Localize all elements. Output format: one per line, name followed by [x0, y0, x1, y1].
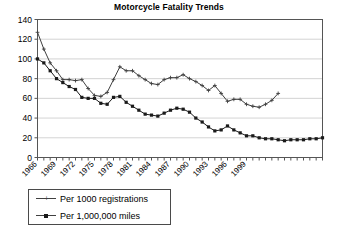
svg-text:40: 40: [23, 113, 33, 123]
svg-text:80: 80: [23, 74, 33, 84]
axes: [38, 20, 323, 158]
svg-text:1984: 1984: [134, 159, 153, 178]
legend-item-miles: Per 1,000,000 miles: [29, 207, 170, 224]
chart-container: Motorcycle Fatality Trends 0204060801001…: [0, 0, 338, 231]
svg-text:1990: 1990: [172, 159, 191, 178]
svg-text:1981: 1981: [115, 159, 134, 178]
chart-legend: + Per 1000 registrations Per 1,000,000 m…: [28, 189, 171, 225]
y-axis-tick-labels: 020406080100120140: [18, 15, 32, 163]
svg-text:1978: 1978: [96, 159, 115, 178]
svg-text:1969: 1969: [39, 159, 58, 178]
svg-text:1975: 1975: [77, 159, 96, 178]
legend-label-registrations: Per 1000 registrations: [60, 194, 148, 204]
svg-text:20: 20: [23, 133, 33, 143]
gridlines: [38, 20, 323, 138]
svg-text:1999: 1999: [229, 159, 248, 178]
svg-text:140: 140: [18, 15, 32, 25]
legend-marker-square-icon: [36, 211, 56, 221]
legend-marker-cross-icon: +: [36, 194, 56, 204]
svg-text:120: 120: [18, 34, 32, 44]
svg-text:100: 100: [18, 54, 32, 64]
svg-text:1987: 1987: [153, 159, 172, 178]
data-series-layer: [36, 30, 325, 142]
svg-text:1993: 1993: [191, 159, 210, 178]
legend-label-miles: Per 1,000,000 miles: [60, 211, 140, 221]
svg-text:1996: 1996: [210, 159, 229, 178]
svg-text:60: 60: [23, 93, 33, 103]
x-axis-tick-labels: 1966196919721975197819811984198719901993…: [20, 159, 248, 178]
svg-text:1972: 1972: [58, 159, 77, 178]
svg-text:1966: 1966: [20, 159, 39, 178]
legend-item-registrations: + Per 1000 registrations: [29, 190, 170, 207]
